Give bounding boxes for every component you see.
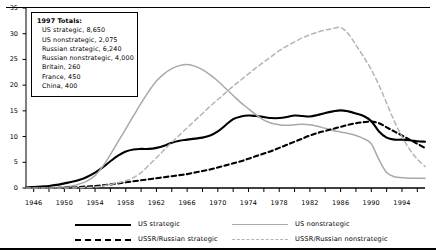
info-box-1997-totals: 1997 Totals: US strategic, 8,650US nonst… [31,12,138,97]
x-axis-tick-label: 1946 [17,199,51,207]
legend-item: USSR/Russian nonstrategic [232,234,388,244]
y-axis-tick-label: 5 [2,158,18,166]
x-axis-tick-label: 1982 [293,199,327,207]
x-axis-tick-label: 1986 [324,199,358,207]
legend-label: USSR/Russian strategic [138,235,218,243]
legend-label: US strategic [138,220,180,228]
x-axis-tick-label: 1994 [385,199,419,207]
y-axis-tick-label: 25 [2,55,18,63]
legend-label: USSR/Russian nonstrategic [295,235,388,243]
x-axis-tick-label: 1978 [262,199,296,207]
info-box-item: Russian nonstrategic, 4,000 [42,54,132,63]
info-box-item: US nonstrategic, 2,075 [42,36,132,45]
info-box-item: France, 450 [42,73,132,82]
legend-item: USSR/Russian strategic [75,234,218,244]
x-axis-tick-label: 1966 [170,199,204,207]
figure-nuclear-stockpiles: 1997 Totals: US strategic, 8,650US nonst… [0,0,436,251]
x-axis-tick-label: 1958 [109,199,143,207]
legend-item: US nonstrategic [232,219,350,229]
x-axis-tick-label: 1970 [201,199,235,207]
bottom-rule [0,248,436,250]
chart-legend: US strategicUS nonstrategicUSSR/Russian … [0,219,436,247]
legend-swatch-solid-gray-icon [232,219,288,229]
y-axis-tick-label: 35 [2,4,18,12]
x-axis-tick-label: 1990 [354,199,388,207]
x-axis-tick-label: 1950 [47,199,81,207]
legend-item: US strategic [75,219,180,229]
legend-label: US nonstrategic [295,220,350,228]
info-box-item: US strategic, 8,650 [42,26,132,35]
info-box-item: Britain, 260 [42,63,132,72]
legend-swatch-dash-gray-icon [232,234,288,244]
y-axis-tick-label: 30 [2,30,18,38]
info-box-item: Russian strategic, 6,240 [42,45,132,54]
legend-swatch-dash-black-icon [75,234,131,244]
x-axis-tick-label: 1974 [232,199,266,207]
info-box-title: 1997 Totals: [37,17,132,26]
y-axis-tick-label: 0 [2,184,18,192]
y-axis-tick-label: 20 [2,81,18,89]
y-axis-tick-label: 15 [2,107,18,115]
info-box-item: China, 400 [42,82,132,91]
x-axis-tick-label: 1962 [139,199,173,207]
legend-swatch-solid-black-icon [75,219,131,229]
x-axis-tick-label: 1954 [78,199,112,207]
y-axis-tick-label: 10 [2,133,18,141]
info-box-list: US strategic, 8,650US nonstrategic, 2,07… [37,26,132,91]
